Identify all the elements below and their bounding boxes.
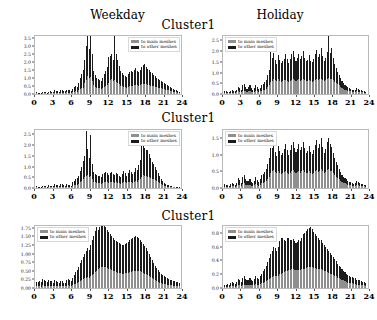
y-axis-tick-label: 3.5 [24, 35, 31, 40]
x-axis-tick-mark [240, 95, 241, 97]
y-axis-tick-label: 1.0 [212, 70, 219, 75]
y-axis-tick-mark [32, 145, 34, 146]
y-axis-tick-mark [220, 51, 222, 52]
x-axis-tick-mark [296, 289, 297, 291]
x-axis-tick-mark [259, 95, 260, 97]
y-axis-tick-mark [32, 61, 34, 62]
bar-segment-to-main-meshes [365, 286, 366, 288]
x-axis-tick-mark [90, 189, 91, 191]
legend-label: to other meshes [238, 139, 274, 143]
y-axis-tick-label: 0.4 [212, 258, 219, 263]
y-axis-tick-label: 2.5 [212, 38, 219, 43]
bar [179, 187, 180, 188]
x-axis-tick-mark [145, 189, 146, 191]
legend-entry: to other meshes [228, 235, 274, 239]
legend-swatch-icon [131, 40, 139, 43]
y-axis-tick-mark [32, 134, 34, 135]
x-axis-tick-label: 24 [176, 191, 187, 201]
bar-segment-to-main-meshes [365, 187, 366, 188]
y-axis-tick-mark [32, 279, 34, 280]
y-axis-tick-label: 1.0 [212, 152, 219, 157]
legend-swatch-icon [228, 46, 236, 49]
legend-entry: to other meshes [228, 45, 274, 49]
x-axis-tick-mark [53, 189, 54, 191]
x-axis-tick-mark [314, 289, 315, 291]
x-axis-tick-mark [164, 289, 165, 291]
x-axis-tick-mark [71, 289, 72, 291]
x-axis-tick-label: 3 [238, 291, 244, 301]
y-axis-tick-mark [32, 53, 34, 54]
y-axis-tick-mark [220, 232, 222, 233]
y-axis-tick-label: 1.0 [24, 164, 31, 169]
x-axis-tick-mark [314, 95, 315, 97]
legend-entry: to other meshes [131, 139, 177, 143]
x-axis-tick-mark [34, 189, 35, 191]
x-axis-tick-label: 18 [139, 191, 150, 201]
row-title-1: Cluster1 [0, 18, 377, 32]
bar-segment-to-main-meshes [179, 93, 180, 94]
x-axis-tick-label: 18 [327, 97, 338, 107]
x-axis-tick-mark [53, 95, 54, 97]
x-axis-tick-mark [90, 289, 91, 291]
legend-swatch-icon [228, 40, 236, 43]
x-axis-tick-mark [108, 289, 109, 291]
y-axis-tick-label: 2.0 [212, 49, 219, 54]
x-axis-tick-label: 3 [238, 97, 244, 107]
x-axis-tick-mark [127, 289, 128, 291]
chart-legend: to main meshesto other meshes [37, 227, 89, 242]
y-axis-tick-label: 1.0 [24, 75, 31, 80]
x-axis-tick-label: 21 [158, 97, 169, 107]
x-axis-tick-mark [332, 289, 333, 291]
y-axis-tick-mark [220, 72, 222, 73]
x-axis-tick-label: 21 [158, 291, 169, 301]
y-axis-tick-mark [220, 171, 222, 172]
x-axis-tick-label: 3 [50, 97, 56, 107]
y-axis-tick-mark [220, 83, 222, 84]
y-axis-tick-label: 1.25 [21, 242, 31, 247]
x-axis-tick-label: 3 [50, 291, 56, 301]
y-axis-tick-mark [32, 85, 34, 86]
x-axis-tick-mark [71, 189, 72, 191]
x-axis-tick-label: 0 [219, 191, 225, 201]
legend-entry: to other meshes [228, 139, 274, 143]
x-axis-tick-mark [222, 189, 223, 191]
x-axis-tick-label: 21 [345, 191, 356, 201]
x-axis-tick-label: 18 [139, 97, 150, 107]
panel-r2c2: 0.00.51.01.503691215182124to main meshes… [188, 126, 377, 202]
bar [179, 283, 180, 288]
x-axis-tick-label: 9 [87, 291, 93, 301]
x-axis-tick-mark [34, 95, 35, 97]
legend-label: to other meshes [141, 139, 177, 143]
y-axis-tick-label: 2.5 [24, 132, 31, 137]
legend-label: to other meshes [238, 45, 274, 49]
bar [365, 92, 366, 94]
x-axis-tick-mark [108, 95, 109, 97]
x-axis-tick-mark [351, 189, 352, 191]
x-axis-tick-label: 21 [158, 191, 169, 201]
x-axis-tick-label: 15 [121, 291, 132, 301]
x-axis-tick-label: 9 [87, 97, 93, 107]
x-axis-tick-label: 12 [102, 191, 113, 201]
legend-label: to other meshes [238, 235, 274, 239]
y-axis-tick-label: 1.5 [24, 67, 31, 72]
x-axis-tick-mark [296, 95, 297, 97]
x-axis-tick-label: 3 [50, 191, 56, 201]
y-axis-tick-label: 0.0 [212, 186, 219, 191]
y-axis-tick-label: 2.5 [24, 51, 31, 56]
legend-swatch-icon [228, 230, 236, 233]
y-axis-tick-mark [32, 262, 34, 263]
x-axis-tick-label: 0 [31, 291, 37, 301]
x-axis-tick-label: 15 [308, 97, 319, 107]
x-axis-tick-mark [332, 189, 333, 191]
x-axis-tick-mark [222, 95, 223, 97]
x-axis-tick-mark [127, 189, 128, 191]
panel-r3c1: 0.000.250.500.751.001.251.501.7503691215… [0, 222, 190, 302]
y-axis-tick-label: 0.75 [21, 260, 31, 265]
x-axis-tick-mark [127, 95, 128, 97]
x-axis-tick-mark [314, 189, 315, 191]
y-axis-tick-mark [32, 37, 34, 38]
x-axis-tick-label: 0 [31, 191, 37, 201]
x-axis-tick-mark [240, 189, 241, 191]
x-axis-tick-mark [351, 289, 352, 291]
x-axis-tick-label: 0 [219, 291, 225, 301]
